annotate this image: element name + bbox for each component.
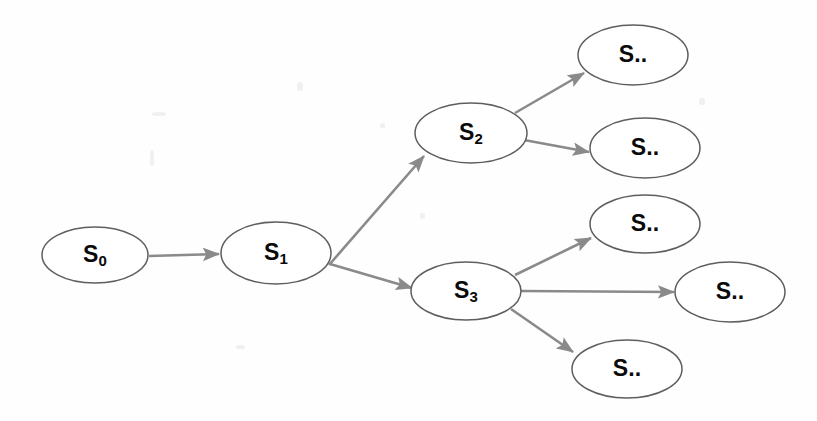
node-leaf3[interactable]: S.. (590, 195, 700, 253)
node-s2[interactable]: S2 (415, 103, 527, 163)
edge-s3-to-leaf3 (515, 238, 591, 275)
nodes-group: S0S1S2S3S..S..S..S..S.. (42, 25, 785, 398)
node-leaf2[interactable]: S.. (590, 118, 700, 178)
node-label-leaf1: S.. (619, 41, 648, 67)
graph-svg: S0S1S2S3S..S..S..S..S.. (0, 0, 817, 421)
node-leaf5[interactable]: S.. (572, 340, 682, 398)
node-s1[interactable]: S1 (221, 222, 331, 284)
edge-s1-to-s2 (329, 156, 424, 265)
node-label-leaf2: S.. (631, 134, 660, 160)
node-s3[interactable]: S3 (411, 262, 521, 320)
edge-s0-to-s1 (149, 254, 219, 256)
node-leaf1[interactable]: S.. (578, 25, 688, 85)
node-label-leaf4: S.. (716, 278, 745, 304)
edge-s2-to-leaf1 (515, 73, 584, 113)
node-label-leaf3: S.. (631, 210, 660, 236)
node-leaf4[interactable]: S.. (675, 262, 785, 322)
edge-s1-to-s3 (330, 264, 412, 288)
diagram-canvas: S0S1S2S3S..S..S..S..S.. (0, 0, 817, 421)
node-s0[interactable]: S0 (42, 227, 148, 283)
edge-s3-to-leaf5 (511, 309, 573, 352)
edge-s2-to-leaf2 (524, 140, 589, 152)
node-label-leaf5: S.. (613, 355, 642, 381)
edge-s3-to-leaf4 (521, 291, 674, 292)
